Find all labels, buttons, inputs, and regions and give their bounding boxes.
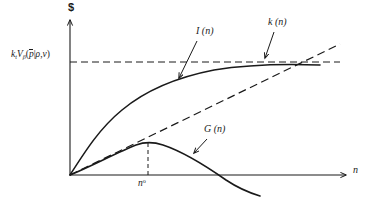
curve-k bbox=[70, 44, 340, 175]
x-axis-tick-label: no bbox=[138, 178, 146, 189]
y-tick-p: p bbox=[29, 49, 34, 59]
y-tick-p-bar-wrap: p bbox=[29, 50, 34, 60]
curve-label-g-args: (n) bbox=[214, 123, 226, 134]
curve-g bbox=[70, 143, 260, 196]
curve-label-k-args: (n) bbox=[275, 16, 287, 27]
leader-line-g bbox=[194, 139, 207, 153]
curve-label-i-args: (n) bbox=[202, 25, 214, 36]
overbar bbox=[29, 49, 33, 50]
curve-label-g: G (n) bbox=[204, 124, 225, 134]
leader-line-k bbox=[265, 32, 274, 58]
x-axis-label: n bbox=[353, 165, 358, 175]
x-tick-superscript: o bbox=[143, 178, 146, 184]
y-axis-tick-label: ktVβ(p|ρ,ν) bbox=[11, 50, 50, 60]
leader-line-i bbox=[179, 41, 197, 78]
plot-area bbox=[0, 0, 372, 201]
curve-label-g-fn: G bbox=[204, 123, 211, 134]
figure-canvas: $ n ktVβ(p|ρ,ν) no I (n) k (n) G (n) bbox=[0, 0, 372, 201]
y-tick-paren-close: ) bbox=[47, 49, 50, 59]
curve-label-k: k (n) bbox=[268, 17, 287, 27]
y-axis-label: $ bbox=[68, 2, 74, 13]
curve-label-k-fn: k bbox=[268, 16, 272, 27]
curve-label-i: I (n) bbox=[196, 26, 214, 36]
curve-label-i-fn: I bbox=[196, 25, 199, 36]
